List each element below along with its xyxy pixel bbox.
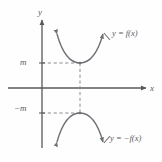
math-figure: y x m −m y = f(x) y = −f(x) [0,0,162,162]
curve-negative-f-of-x [57,113,103,142]
y-tick-label-negative-m: −m [14,104,27,113]
x-axis-label: x [150,84,154,93]
vertex-upper [79,62,82,65]
leader-upper [104,33,110,40]
y-tick-label-m: m [20,58,27,67]
curve-label-f-of-x: y = f(x) [112,29,138,38]
y-axis-label: y [38,8,42,17]
curve-label-negative-f-of-x: y = −f(x) [110,134,141,143]
curve-f-of-x [57,34,103,63]
vertex-lower [79,112,82,115]
axis-group [8,20,146,148]
